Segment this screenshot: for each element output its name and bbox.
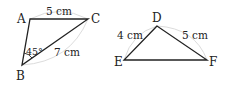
triangle-def: D E F 4 cm 5 cm: [114, 11, 217, 69]
side-bc-label: 7 cm: [54, 46, 80, 58]
triangle-abc: A C B 5 cm 7 cm 45°: [16, 5, 100, 83]
vertex-a-label: A: [16, 12, 26, 26]
side-de-label: 4 cm: [117, 29, 143, 41]
vertex-f-label: F: [209, 55, 217, 69]
triangles-svg: A C B 5 cm 7 cm 45° D E F 4 cm 5 cm: [0, 0, 228, 85]
vertex-e-label: E: [114, 55, 123, 69]
diagram-canvas: A C B 5 cm 7 cm 45° D E F 4 cm 5 cm: [0, 0, 228, 85]
vertex-b-label: B: [16, 69, 25, 83]
triangle-abc-shape: [22, 19, 88, 65]
angle-b-label: 45°: [26, 46, 43, 57]
side-df-label: 5 cm: [182, 29, 208, 41]
side-ac-label: 5 cm: [46, 5, 72, 17]
vertex-c-label: C: [91, 12, 100, 26]
vertex-d-label: D: [152, 11, 162, 25]
